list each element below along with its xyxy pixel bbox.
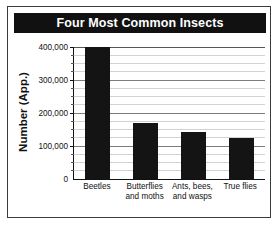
y-tick-label: 200,000: [38, 109, 68, 118]
x-category-label: True flies: [216, 182, 264, 192]
bar: [133, 123, 158, 179]
chart-title: Four Most Common Insects: [57, 16, 224, 30]
y-tick-label: 300,000: [38, 76, 68, 85]
x-category-label-line: True flies: [216, 182, 264, 192]
chart-figure: Four Most Common Insects Number (App.) 0…: [7, 6, 271, 218]
bar-series: [74, 47, 265, 179]
y-tick-label: 400,000: [38, 43, 68, 52]
y-tick-label: 0: [63, 175, 68, 184]
bar: [85, 47, 110, 179]
chart-title-bar: Four Most Common Insects: [14, 13, 266, 33]
x-axis-category-labels: BeetlesButterfliesand mothsAnts, bees,an…: [73, 182, 264, 212]
y-axis-title: Number (App.): [16, 47, 30, 177]
plot-area: 0100,000200,000300,000400,000: [73, 47, 265, 180]
x-category-label-line: Butterflies: [121, 182, 169, 192]
y-axis-title-text: Number (App.): [17, 72, 29, 152]
bar: [181, 132, 206, 179]
bar: [229, 138, 254, 179]
y-tick-label: 100,000: [38, 142, 68, 151]
x-category-label-line: Beetles: [73, 182, 121, 192]
x-category-label-line: Ants, bees,: [169, 182, 217, 192]
x-category-label: Butterfliesand moths: [121, 182, 169, 201]
x-category-label-line: and moths: [121, 192, 169, 202]
x-category-label: Ants, bees,and wasps: [169, 182, 217, 201]
x-category-label: Beetles: [73, 182, 121, 192]
x-category-label-line: and wasps: [169, 192, 217, 202]
